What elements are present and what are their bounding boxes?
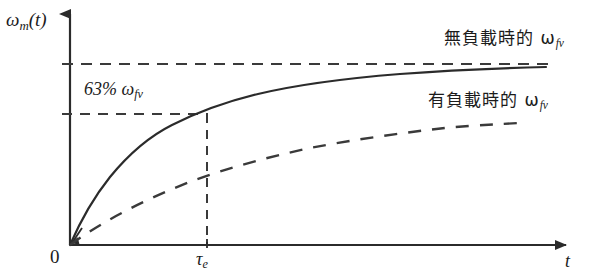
legend-no-load-text: 無負載時的 ω: [444, 28, 556, 48]
figure-container: ωm(t) t 0 τe 63% ωfv 無負載時的 ωfv 有負載時的 ωfv: [0, 0, 589, 279]
y-axis-label: ωm(t): [6, 10, 47, 33]
legend-loaded-text: 有負載時的 ω: [428, 90, 540, 110]
x-axis-label: t: [565, 252, 570, 270]
percent-63-label: 63% ωfv: [84, 80, 143, 101]
legend-loaded-subscript: fv: [540, 99, 548, 112]
y-axis-label-subscript: m: [19, 18, 28, 33]
tau-subscript: e: [202, 257, 207, 271]
y-axis-label-suffix: (t): [29, 9, 47, 30]
legend-no-load-label: 無負載時的 ωfv: [444, 30, 564, 50]
legend-no-load-subscript: fv: [556, 37, 564, 50]
percent-63-subscript: fv: [134, 87, 143, 101]
curve-no-load: [70, 109, 207, 245]
y-axis-label-omega: ω: [6, 9, 19, 30]
tau-e-label: τe: [196, 250, 208, 271]
legend-loaded-label: 有負載時的 ωfv: [428, 92, 548, 112]
curve-loaded-dashed: [70, 123, 520, 245]
origin-label: 0: [50, 247, 60, 266]
percent-63-text: 63% ω: [84, 79, 134, 99]
